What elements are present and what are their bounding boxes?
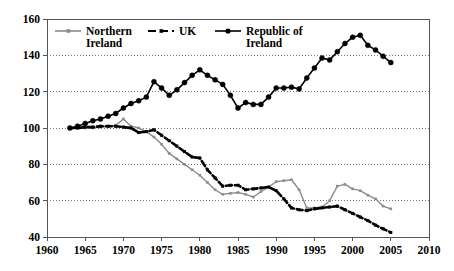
- x-tick-label-1985: 1985: [227, 244, 250, 256]
- x-tick-label-1965: 1965: [74, 244, 97, 256]
- legend-item-uk[interactable]: UK: [148, 25, 196, 37]
- legend-label-line1: Northern: [86, 25, 133, 37]
- data-point: [221, 193, 224, 196]
- data-point: [160, 134, 163, 137]
- data-point: [153, 136, 156, 139]
- data-point: [213, 77, 218, 82]
- legend-marker-square-icon: [160, 29, 164, 33]
- data-point: [283, 179, 286, 182]
- data-point: [266, 95, 271, 100]
- data-point: [328, 199, 331, 202]
- y-tick-label-100: 100: [23, 122, 41, 134]
- data-point: [237, 191, 240, 194]
- data-point: [281, 86, 286, 91]
- data-point: [182, 80, 187, 85]
- data-point: [244, 188, 247, 191]
- data-point: [151, 79, 156, 84]
- data-point: [305, 207, 308, 210]
- data-point: [327, 57, 332, 62]
- data-point: [229, 192, 232, 195]
- data-point: [290, 206, 293, 209]
- data-point: [251, 102, 256, 107]
- data-point: [191, 156, 194, 159]
- data-point: [191, 168, 194, 171]
- data-point: [321, 206, 324, 209]
- data-point: [344, 183, 347, 186]
- y-tick-label-40: 40: [29, 231, 41, 243]
- data-point: [298, 208, 301, 211]
- data-point: [236, 106, 241, 111]
- x-tick-label-2000: 2000: [341, 244, 364, 256]
- y-tick-label-80: 80: [29, 158, 41, 170]
- data-point: [145, 130, 148, 133]
- legend-item-republic-of-ireland[interactable]: Republic ofIreland: [215, 25, 303, 49]
- data-point: [343, 208, 346, 211]
- data-point: [252, 196, 255, 199]
- data-point: [75, 124, 80, 129]
- legend-label-line2: Ireland: [86, 37, 123, 49]
- data-point: [381, 54, 386, 59]
- data-point: [183, 163, 186, 166]
- data-point: [243, 100, 248, 105]
- data-point: [206, 168, 209, 171]
- data-point: [388, 60, 393, 65]
- data-point: [342, 41, 347, 46]
- data-point: [336, 205, 339, 208]
- legend-label-line2: Ireland: [246, 37, 283, 49]
- data-point: [198, 156, 201, 159]
- data-point: [228, 93, 233, 98]
- data-point: [382, 227, 385, 230]
- y-tick-label-160: 160: [23, 13, 41, 25]
- data-point: [373, 47, 378, 52]
- y-tick-label-140: 140: [23, 49, 41, 61]
- data-point: [237, 184, 240, 187]
- data-point: [359, 189, 362, 192]
- data-point: [297, 86, 302, 91]
- data-point: [374, 198, 377, 201]
- data-point: [160, 143, 163, 146]
- y-tick-label-120: 120: [23, 86, 41, 98]
- data-point: [83, 121, 88, 126]
- series-line: [70, 126, 391, 232]
- data-point: [121, 106, 126, 111]
- data-point: [275, 180, 278, 183]
- data-point: [365, 43, 370, 48]
- data-point: [382, 205, 385, 208]
- data-point: [320, 56, 325, 61]
- data-point: [366, 219, 369, 222]
- data-point: [290, 178, 293, 181]
- data-point: [183, 150, 186, 153]
- data-point: [99, 125, 102, 128]
- data-point: [107, 125, 110, 128]
- data-point: [67, 126, 72, 131]
- series-uk: [68, 125, 392, 234]
- data-point: [214, 188, 217, 191]
- data-point: [389, 231, 392, 234]
- data-point: [220, 82, 225, 87]
- data-point: [313, 207, 316, 210]
- data-point: [359, 216, 362, 219]
- data-point: [129, 101, 134, 106]
- data-point: [350, 35, 355, 40]
- legend-label-line1: UK: [179, 25, 196, 37]
- data-point: [106, 114, 111, 119]
- x-tick-label-1970: 1970: [112, 244, 135, 256]
- data-point: [304, 76, 309, 81]
- data-point: [199, 174, 202, 177]
- data-point: [267, 186, 270, 189]
- data-point: [336, 185, 339, 188]
- data-point: [197, 67, 202, 72]
- x-tick-label-1980: 1980: [188, 244, 211, 256]
- data-point: [136, 98, 141, 103]
- x-tick-label-1990: 1990: [265, 244, 288, 256]
- data-point: [90, 118, 95, 123]
- data-point: [390, 208, 393, 211]
- legend-item-northern-ireland[interactable]: NorthernIreland: [55, 25, 133, 49]
- grid-lines: [47, 55, 429, 200]
- data-point: [335, 49, 340, 54]
- data-point: [258, 102, 263, 107]
- line-chart: 4060801001201401601960196519701975198019…: [0, 0, 454, 271]
- data-point: [137, 127, 140, 130]
- data-point: [98, 116, 103, 121]
- data-point: [221, 185, 224, 188]
